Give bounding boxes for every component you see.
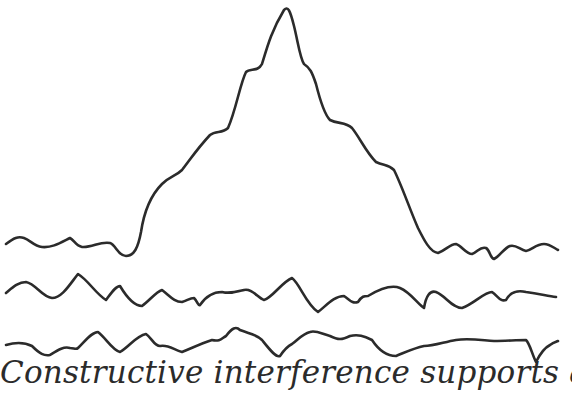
caption: Constructive interference supports and	[0, 354, 572, 390]
summed-peak-wave	[6, 9, 558, 259]
interference-diagram	[0, 0, 572, 402]
component-wave-1	[6, 274, 556, 312]
